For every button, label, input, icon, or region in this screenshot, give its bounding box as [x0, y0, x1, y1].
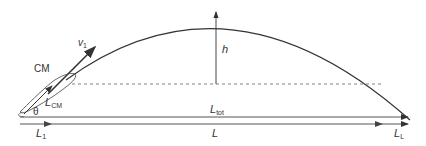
theta-label: θ — [33, 107, 39, 117]
diagram-canvas — [0, 0, 426, 146]
long-jump-diagram: v1 h CM LCM θ Ltot L1 L LL — [0, 0, 426, 146]
height-label: h — [222, 44, 228, 55]
l1-label: L1 — [36, 128, 46, 140]
l1-arrowhead — [44, 121, 52, 127]
l-label: L — [212, 128, 218, 139]
cm-label: CM — [34, 64, 50, 74]
velocity-label: v1 — [78, 38, 87, 49]
trajectory-curve — [66, 29, 410, 120]
ll-label: LL — [394, 128, 404, 140]
velocity-arrow — [48, 47, 95, 94]
lcm-label: LCM — [45, 97, 62, 109]
ll-arrowhead — [375, 121, 383, 127]
ltot-label: Ltot — [210, 104, 224, 116]
